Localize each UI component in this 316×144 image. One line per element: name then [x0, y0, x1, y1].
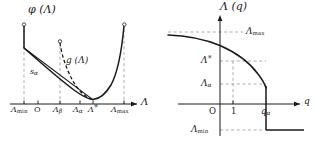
- ytick-lambda-max-sub: max: [253, 30, 265, 36]
- ytick-lambda-max-base: Λ: [246, 26, 253, 36]
- ytick-label-lambda-star: Λ*: [201, 56, 212, 65]
- x-axis-arrowhead: [294, 102, 300, 107]
- xtick-q-alpha-sub: α: [266, 109, 270, 116]
- lambda-of-q-panel: Λ (q) q Λmax Λ* Λα Λmin O 1 qα: [158, 0, 316, 144]
- phi-axis-title: φ (Λ): [28, 4, 56, 15]
- xtick-lambda-max-sub: max: [117, 108, 129, 114]
- xtick-lambda-min-sub: min: [17, 108, 28, 114]
- s-alpha-subscript: α: [34, 69, 38, 76]
- phi-of-lambda-panel: φ (Λ) Λ sα g (Λ) Λmin O Λβ Λα Λ* Λmax: [0, 0, 158, 144]
- xtick-label-lambda-alpha: Λα: [73, 106, 83, 114]
- xtick-label-lambda-min: Λmin: [11, 106, 28, 114]
- xtick-label-one: 1: [231, 107, 236, 116]
- ytick-label-lambda-alpha: Λα: [201, 79, 212, 88]
- ytick-lambda-alpha-base: Λ: [201, 78, 208, 88]
- xtick-lambda-alpha-base: Λ: [73, 105, 79, 114]
- xtick-label-lambda-beta: Λβ: [53, 106, 62, 114]
- s-alpha-label: sα: [30, 68, 38, 76]
- ytick-lambda-star-base: Λ: [201, 55, 208, 65]
- xtick-lambda-beta-sub: β: [59, 107, 62, 114]
- open-circle-g-start: [58, 40, 61, 43]
- open-circle-phi-left-top: [22, 23, 25, 26]
- g-lambda-label: g (Λ): [66, 56, 88, 65]
- ytick-lambda-alpha-sub: α: [208, 81, 212, 88]
- y-axis-arrowhead: [218, 15, 223, 21]
- lambda-q-axis-title: Λ (q): [220, 1, 247, 12]
- ytick-label-lambda-max: Λmax: [246, 27, 264, 36]
- xtick-label-origin: O: [209, 107, 216, 116]
- xtick-label-lambda-star: Λ*: [88, 106, 98, 114]
- xtick-lambda-min-base: Λ: [11, 105, 17, 114]
- xtick-lambda-max-base: Λ: [111, 105, 117, 114]
- ytick-lambda-star-sub: *: [208, 54, 212, 63]
- xtick-lambda-star-base: Λ: [88, 105, 94, 114]
- ytick-label-lambda-min: Λmin: [191, 125, 208, 134]
- xtick-label-q-alpha: qα: [261, 107, 271, 116]
- ytick-lambda-min-sub: min: [198, 128, 209, 134]
- lambda-q-curve: [168, 35, 266, 88]
- xtick-label-origin: O: [34, 106, 41, 114]
- xtick-lambda-beta-base: Λ: [53, 105, 59, 114]
- x-axis-arrowhead: [131, 102, 137, 107]
- xtick-lambda-alpha-sub: α: [79, 107, 83, 114]
- xtick-lambda-star-sub: *: [94, 103, 98, 112]
- xtick-label-lambda-max: Λmax: [111, 106, 129, 114]
- x-axis-label-q: q: [304, 97, 310, 106]
- ytick-lambda-min-base: Λ: [191, 124, 198, 134]
- phi-plot-svg: [0, 0, 158, 144]
- figure-container: φ (Λ) Λ sα g (Λ) Λmin O Λβ Λα Λ* Λmax: [0, 0, 316, 144]
- x-axis-label-lambda: Λ: [141, 97, 148, 107]
- open-circle-phi-right-top: [123, 23, 126, 26]
- lambda-q-plot-svg: [158, 0, 316, 144]
